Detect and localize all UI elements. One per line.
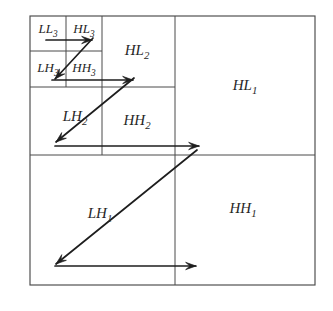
subband-label-hh1: HH1: [228, 200, 256, 219]
scan-arrows: [46, 36, 199, 269]
subband-label-hl2: HL2: [124, 42, 150, 61]
subband-label-hh2: HH2: [122, 112, 151, 131]
arrow-level1-diagonal: [56, 150, 197, 264]
wavelet-subband-figure: LL3HL3LH3HH3HL2LH2HH2HL1LH1HH1: [0, 0, 333, 311]
subband-label-lh1: LH1: [87, 205, 113, 224]
outer-frame: [30, 16, 315, 285]
subband-label-hl3: HL3: [72, 21, 95, 39]
subband-grid: [30, 16, 315, 285]
subband-label-lh2: LH2: [62, 108, 88, 127]
arrow-level1-diagonal-shaft: [56, 150, 197, 264]
arrow-level1-horizontal: [55, 142, 199, 149]
subband-label-lh3: LH3: [36, 60, 59, 78]
subband-label-hl1: HL1: [232, 77, 258, 96]
subband-label-hh3: HH3: [71, 60, 96, 78]
wavelet-decomposition-diagram: LL3HL3LH3HH3HL2LH2HH2HL1LH1HH1: [0, 0, 333, 311]
subband-label-ll3: LL3: [37, 21, 57, 39]
